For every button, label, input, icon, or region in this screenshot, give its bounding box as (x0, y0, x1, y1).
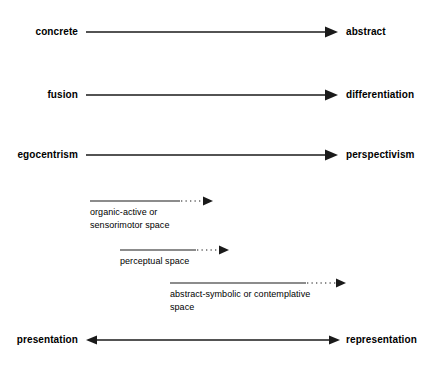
axis-row-fusion-differentiation: fusion differentiation (0, 87, 440, 103)
axis-row-egocentrism-perspectivism: egocentrism perspectivism (0, 147, 440, 163)
axis-row-concrete-abstract: concrete abstract (0, 24, 440, 40)
diagram-canvas: concrete abstract fusion differentiation… (0, 0, 440, 367)
axis-right-label-differentiation: differentiation (346, 87, 414, 103)
space-arrow-organic-active (0, 195, 440, 209)
space-row-organic-active: organic-active or sensorimotor space (0, 195, 440, 235)
axis-row-presentation-representation: presentation representation (0, 332, 440, 348)
space-arrow-perceptual (0, 244, 440, 258)
axis-right-label-representation: representation (346, 332, 417, 348)
axis-right-label-perspectivism: perspectivism (346, 147, 415, 163)
space-caption-perceptual: perceptual space (120, 255, 189, 268)
space-row-abstract-symbolic: abstract-symbolic or contemplative space (0, 277, 440, 317)
axis-right-label-abstract: abstract (346, 24, 386, 40)
space-row-perceptual: perceptual space (0, 244, 440, 272)
space-caption-abstract-symbolic: abstract-symbolic or contemplative space (170, 288, 310, 313)
space-caption-organic-active: organic-active or sensorimotor space (90, 206, 169, 231)
